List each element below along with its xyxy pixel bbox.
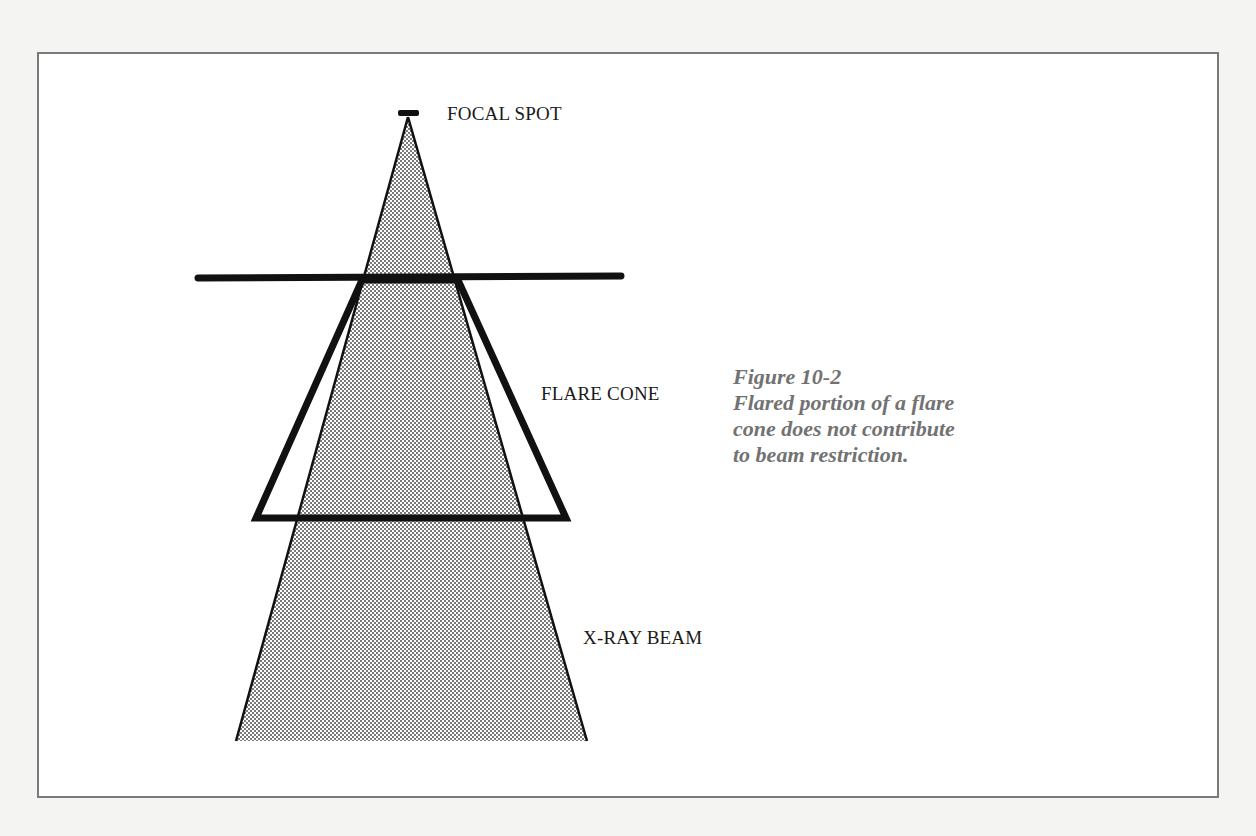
caption-line: Flared portion of a flare: [733, 390, 955, 416]
flare-cone-diagram: [0, 0, 1256, 836]
label-xray-beam: X-RAY BEAM: [583, 627, 702, 649]
focal-spot-icon: [398, 110, 419, 116]
label-focal-spot: FOCAL SPOT: [447, 103, 562, 125]
figure-number: Figure 10-2: [733, 364, 955, 390]
caption-line: cone does not contribute: [733, 416, 955, 442]
caption-line: to beam restriction.: [733, 442, 955, 468]
figure-caption: Figure 10-2 Flared portion of a flare co…: [733, 364, 955, 468]
label-flare-cone: FLARE CONE: [541, 383, 660, 405]
xray-beam: [236, 117, 587, 741]
